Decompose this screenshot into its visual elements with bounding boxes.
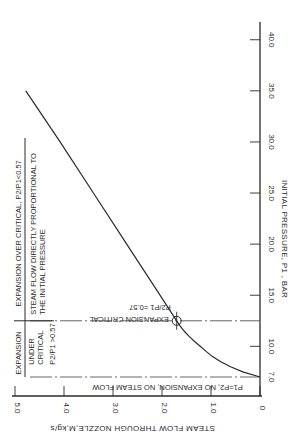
pressure-tick-label: 30.0 [267, 134, 276, 150]
flow-tick-label: 1.0 [209, 402, 218, 414]
region-under-ratio: P2/P1 >0.57 [48, 323, 57, 365]
region-under-header: EXPANSION [14, 331, 23, 374]
flow-tick-label: 0 [258, 406, 267, 411]
critical-point-marker [172, 312, 181, 330]
pressure-tick-label: 25.0 [267, 185, 276, 201]
region-over-body-2: THE INITIAL PRESSURE [38, 229, 47, 315]
flow-tick-label: 5.0 [13, 402, 22, 414]
chart: 7.010.015.020.025.030.035.040.0 01.02.03… [0, 0, 294, 436]
pressure-tick-label: 10.0 [267, 339, 276, 355]
critical-ratio-label: P2/P1 =0.57 [129, 303, 171, 312]
flow-axis-title: STEAM FLOW THROUGH NOZZLE,M,kg/s [50, 424, 215, 433]
no-flow-label: P1=P2, NO EXPANSION, NO STEAM FLOW [91, 383, 242, 392]
pressure-tick-label: 35.0 [267, 83, 276, 99]
pressure-tick-label: 40.0 [267, 32, 276, 48]
region-over-body-1: STEAM FLOW DIRECTLY PROPORTIONAL TO [29, 153, 38, 315]
pressure-ticks: 7.010.015.020.025.030.035.040.0 [250, 32, 276, 383]
region-under-body-1: UNDER [27, 338, 36, 365]
critical-line-label: EXPANSION CRITICAL [89, 315, 168, 324]
flow-tick-label: 3.0 [111, 402, 120, 414]
pressure-tick-label: 7.0 [267, 371, 276, 383]
flow-tick-label: 2.0 [160, 402, 169, 414]
pressure-tick-label: 15.0 [267, 287, 276, 303]
region-under-body-2: CRITICAL [36, 331, 45, 365]
pressure-tick-label: 20.0 [267, 236, 276, 252]
region-over-header: EXPANSION OVER CRITICAL, P2/P1<0.57 [14, 160, 23, 306]
flow-tick-label: 4.0 [62, 402, 71, 414]
steam-flow-curve [26, 91, 260, 377]
pressure-axis-title: INITIAL PRESSURE, P1 , BAR [280, 180, 289, 298]
